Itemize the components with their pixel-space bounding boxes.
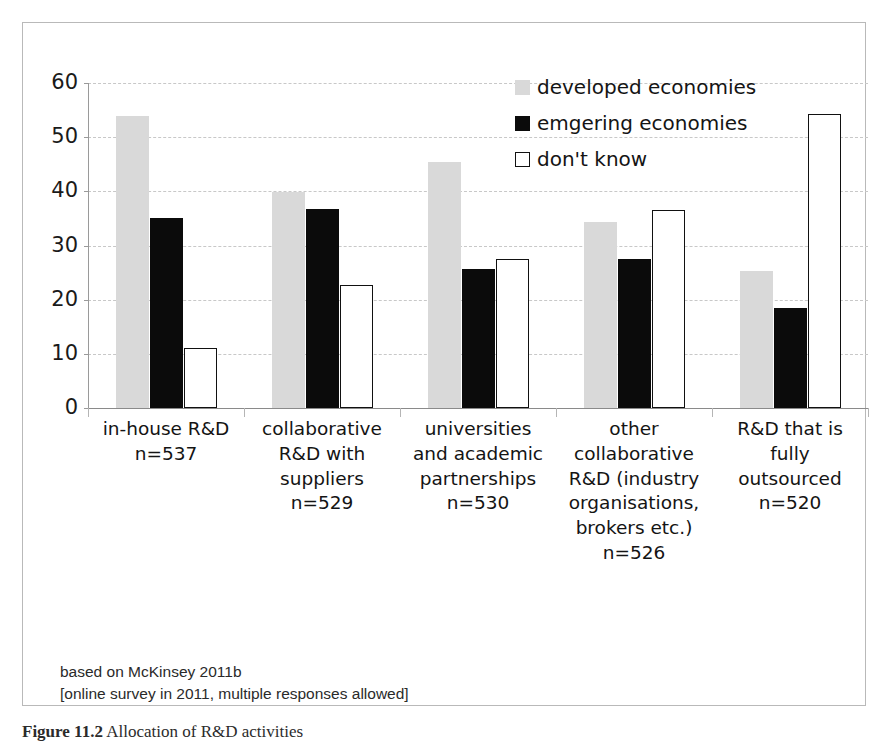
y-tick-10 xyxy=(84,354,89,355)
figure-caption-label: Figure 11.2 xyxy=(22,722,103,741)
category-label-line: n=526 xyxy=(559,541,709,566)
category-separator xyxy=(868,408,869,417)
bar xyxy=(740,271,773,408)
bar xyxy=(774,308,807,408)
footnote-source: based on McKinsey 2011b xyxy=(60,661,409,683)
category-label-line: fully xyxy=(715,442,865,467)
category-label-line: collaborative xyxy=(559,442,709,467)
legend-swatch-icon xyxy=(515,152,530,167)
category-label-line: in-house R&D xyxy=(91,417,241,442)
gridline-0 xyxy=(88,408,868,409)
category-label-1: in-house R&Dn=537 xyxy=(88,417,244,566)
y-tick-50 xyxy=(84,137,89,138)
figure-caption-text: Allocation of R&D activities xyxy=(106,722,303,741)
legend-label: emgering economies xyxy=(537,111,748,135)
category-label-4: othercollaborativeR&D (industryorganisat… xyxy=(556,417,712,566)
category-label-line: universities xyxy=(403,417,553,442)
category-separator xyxy=(712,408,713,417)
category-label-line: other xyxy=(559,417,709,442)
category-label-line: organisations, xyxy=(559,491,709,516)
y-tick-label-10: 10 xyxy=(34,343,78,364)
y-tick-label-30: 30 xyxy=(34,235,78,256)
y-tick-label-50: 50 xyxy=(34,126,78,147)
category-label-line: n=529 xyxy=(247,491,397,516)
category-label-5: R&D that isfullyoutsourcedn=520 xyxy=(712,417,868,566)
bar xyxy=(272,192,305,408)
category-label-3: universitiesand academicpartnershipsn=53… xyxy=(400,417,556,566)
legend-item-2: emgering economies xyxy=(515,105,775,141)
category-label-line: outsourced xyxy=(715,467,865,492)
y-tick-label-60: 60 xyxy=(34,72,78,93)
category-label-line: R&D with xyxy=(247,442,397,467)
legend-item-1: developed economies xyxy=(515,69,775,105)
y-tick-label-20: 20 xyxy=(34,289,78,310)
category-label-line: brokers etc.) xyxy=(559,516,709,541)
bar xyxy=(150,218,183,408)
legend-swatch-icon xyxy=(515,80,530,95)
figure-frame: 0102030405060 in-house R&Dn=537collabora… xyxy=(22,22,866,706)
figure-caption: Figure 11.2 Allocation of R&D activities xyxy=(22,722,303,742)
category-separator xyxy=(400,408,401,417)
y-tick-20 xyxy=(84,300,89,301)
category-label-line: R&D (industry xyxy=(559,467,709,492)
bar-group xyxy=(244,83,400,408)
category-label-line: n=537 xyxy=(91,442,241,467)
y-tick-30 xyxy=(84,246,89,247)
bar xyxy=(584,222,617,408)
legend-swatch-icon xyxy=(515,116,530,131)
y-tick-label-0: 0 xyxy=(34,397,78,418)
chart-footnotes: based on McKinsey 2011b [online survey i… xyxy=(60,661,409,706)
category-label-line: n=520 xyxy=(715,491,865,516)
category-label-line: collaborative xyxy=(247,417,397,442)
bar-group xyxy=(88,83,244,408)
category-label-line: n=530 xyxy=(403,491,553,516)
bar xyxy=(116,116,149,409)
bar xyxy=(428,162,461,408)
bar xyxy=(652,210,685,408)
bar xyxy=(340,285,373,409)
bar xyxy=(462,269,495,408)
footnote-survey-note: [online survey in 2011, multiple respons… xyxy=(60,683,409,705)
y-tick-60 xyxy=(84,83,89,84)
category-label-line: suppliers xyxy=(247,467,397,492)
y-tick-40 xyxy=(84,191,89,192)
category-separator xyxy=(88,408,89,417)
legend-label: don't know xyxy=(537,147,647,171)
category-separator xyxy=(244,408,245,417)
category-label-line: and academic xyxy=(403,442,553,467)
bar xyxy=(184,348,217,408)
chart-legend: developed economiesemgering economiesdon… xyxy=(515,69,775,177)
category-label-line: partnerships xyxy=(403,467,553,492)
y-tick-label-40: 40 xyxy=(34,180,78,201)
x-axis-category-labels: in-house R&Dn=537collaborativeR&D withsu… xyxy=(88,417,868,566)
category-label-line: R&D that is xyxy=(715,417,865,442)
y-axis xyxy=(88,83,89,408)
category-separator xyxy=(556,408,557,417)
legend-item-3: don't know xyxy=(515,141,775,177)
bar xyxy=(496,259,529,409)
bar xyxy=(618,259,651,408)
bar xyxy=(808,114,841,408)
category-label-2: collaborativeR&D withsuppliersn=529 xyxy=(244,417,400,566)
bar xyxy=(306,209,339,408)
legend-label: developed economies xyxy=(537,75,756,99)
